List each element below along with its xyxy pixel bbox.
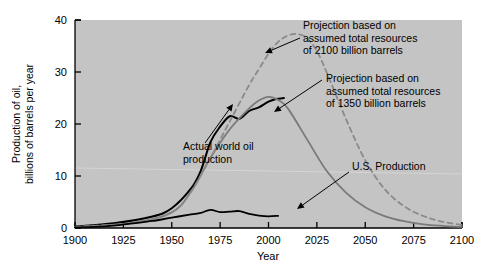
oil-production-figure: 010203040 190019251950197520002025205020… — [0, 0, 496, 271]
x-tick-label: 2025 — [305, 234, 329, 246]
annotation-text-line: assumed total resources — [326, 85, 440, 97]
y-axis-title-line2: billions of barrels per year — [23, 63, 35, 184]
x-axis-title: Year — [257, 250, 280, 262]
annotation-text-line: Actual world oil — [183, 140, 254, 152]
x-tick-label: 1950 — [160, 234, 184, 246]
x-tick-label: 1975 — [208, 234, 232, 246]
annotation-text-line: Projection based on — [326, 72, 419, 84]
y-tick-label: 30 — [55, 66, 67, 78]
annotation-text-line: production — [183, 153, 232, 165]
x-tick-label: 1925 — [111, 234, 135, 246]
annotation-text-line: U.S. Production — [352, 160, 426, 172]
annotation-text-line: assumed total resources — [303, 32, 417, 44]
x-tick-label: 2100 — [450, 234, 474, 246]
x-tick-label: 2000 — [256, 234, 280, 246]
annotation-text-line: of 1350 billion barrels — [326, 97, 426, 109]
y-tick-label: 20 — [55, 118, 67, 130]
y-tick-label: 10 — [55, 170, 67, 182]
annotation-text-line: Projection based on — [303, 19, 396, 31]
y-tick-label: 40 — [55, 14, 67, 26]
x-tick-label: 2075 — [401, 234, 425, 246]
x-tick-label: 1900 — [63, 234, 87, 246]
y-tick-label: 0 — [61, 222, 67, 234]
x-tick-label: 2050 — [353, 234, 377, 246]
y-axis-title-line1: Production of oil, — [10, 85, 22, 163]
x-axis-tick-labels: 190019251950197520002025205020752100 — [63, 234, 474, 246]
oil-production-chart: 010203040 190019251950197520002025205020… — [0, 0, 496, 271]
annotation-text-line: of 2100 billion barrels — [303, 44, 403, 56]
